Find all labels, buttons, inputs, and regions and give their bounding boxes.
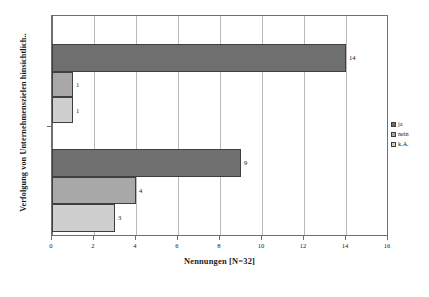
x-axis-tick-12 [303,236,304,240]
x-axis-label-14: 14 [334,242,356,249]
bar-label-werte-ka: 3 [118,214,121,221]
legend-swatch-nein [391,132,396,137]
x-axis-label-0: 0 [40,242,62,249]
legend-swatch-ka [391,142,396,147]
plot-inner: 14 1 1 9 4 3 [52,16,387,235]
x-axis-tick-6 [177,236,178,240]
x-axis-tick-2 [93,236,94,240]
bar-label-wert-ka: 1 [76,107,79,114]
x-axis-tick-0 [51,236,52,240]
plot-area: 14 1 1 9 4 3 [51,15,388,236]
legend: ja nein k.A. [391,120,429,150]
x-axis-tick-16 [387,236,388,240]
x-axis-label-12: 12 [292,242,314,249]
bar-wert-nein [52,72,73,97]
bar-wert-ka [52,97,73,123]
bar-werte-nein [52,177,136,204]
legend-label-nein: nein [398,131,409,137]
legend-item-ja: ja [391,120,429,129]
x-axis-label-2: 2 [82,242,104,249]
bar-label-wert-ja: 14 [349,54,356,61]
bar-chart: Verfolgung von Unternehmenszielen hinsic… [0,0,429,297]
legend-label-ka: k.A. [398,141,409,147]
x-axis-label-4: 4 [124,242,146,249]
legend-item-ka: k.A. [391,140,429,149]
gridline-14 [346,16,347,235]
x-axis-tick-8 [219,236,220,240]
x-axis-label-6: 6 [166,242,188,249]
bar-werte-ka [52,204,115,232]
x-axis-label-16: 16 [376,242,398,249]
legend-label-ja: ja [398,121,402,127]
bar-label-werte-ja: 9 [244,159,247,166]
bar-wert-ja [52,44,346,72]
x-axis-tick-10 [261,236,262,240]
bar-werte-ja [52,149,241,177]
x-axis-tick-4 [135,236,136,240]
x-axis-title: Nennungen [N=32] [51,257,388,266]
legend-swatch-ja [391,122,396,127]
y-axis-title: Verfolgung von Unternehmenszielen hinsic… [19,8,28,238]
legend-item-nein: nein [391,130,429,139]
bar-label-werte-nein: 4 [139,187,142,194]
bar-label-wert-nein: 1 [76,81,79,88]
x-axis-tick-14 [345,236,346,240]
x-axis-label-8: 8 [208,242,230,249]
x-axis-label-10: 10 [250,242,272,249]
